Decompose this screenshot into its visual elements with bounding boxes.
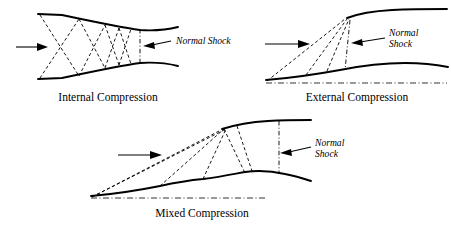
callout-leader-line <box>152 41 171 45</box>
callout-leader-line <box>289 147 311 152</box>
normal-shock-label-line1: Normal <box>314 137 345 148</box>
panel-external-compression: Normal Shock External Compression <box>265 9 448 104</box>
flow-arrow-head <box>298 40 310 48</box>
flow-arrow-mixed <box>118 151 162 159</box>
panel-caption-external: External Compression <box>306 91 409 104</box>
normal-shock-callout-mixed: Normal Shock <box>280 137 345 159</box>
oblique-shock-4 <box>79 25 105 76</box>
flow-arrow-external <box>265 40 310 48</box>
callout-arrow-head <box>280 149 292 156</box>
normal-shock-label-line1: Normal <box>388 27 419 38</box>
oblique-shock-2 <box>306 19 347 75</box>
oblique-shock-system-internal <box>40 15 131 78</box>
flow-arrow-head <box>150 151 162 159</box>
panel-internal-compression: Normal Shock Internal Compression <box>16 14 231 104</box>
ramp-wall-mixed <box>91 171 311 196</box>
oblique-shock-6 <box>105 28 119 68</box>
callout-arrow-head <box>351 39 363 46</box>
oblique-shock-1 <box>40 15 79 76</box>
ramp-wall-external <box>266 63 448 80</box>
oblique-shock-6 <box>237 126 253 174</box>
diagram-canvas: Normal Shock Internal Compression <box>0 0 451 229</box>
panel-mixed-compression: Normal Shock Mixed Compression <box>91 120 345 220</box>
oblique-shock-4 <box>203 129 226 179</box>
cowl-wall-external <box>347 9 447 18</box>
callout-arrow-head <box>143 42 155 49</box>
normal-shock-callout-internal: Normal Shock <box>143 35 231 49</box>
oblique-shock-5 <box>105 25 119 65</box>
upper-wall-internal <box>38 14 178 30</box>
normal-shock-label: Normal Shock <box>175 35 231 46</box>
normal-shock-callout-external: Normal Shock <box>351 27 419 49</box>
panel-caption-mixed: Mixed Compression <box>155 207 249 220</box>
cowl-wall-mixed <box>222 120 311 129</box>
oblique-shock-3 <box>79 19 105 68</box>
flow-arrow-internal <box>16 43 48 51</box>
oblique-shock-system-mixed <box>92 126 253 197</box>
oblique-shock-5 <box>224 129 245 173</box>
oblique-shock-2 <box>40 19 79 78</box>
panel-caption-internal: Internal Compression <box>58 91 158 104</box>
normal-shock-label-line2: Shock <box>315 148 339 159</box>
callout-leader-line <box>360 38 385 42</box>
normal-shock-label-line2: Shock <box>389 38 413 49</box>
lower-wall-internal <box>38 63 178 79</box>
flow-arrow-head <box>37 43 48 51</box>
oblique-shock-system-external <box>267 19 349 81</box>
inlet-compression-figure: Normal Shock Internal Compression <box>0 0 451 229</box>
